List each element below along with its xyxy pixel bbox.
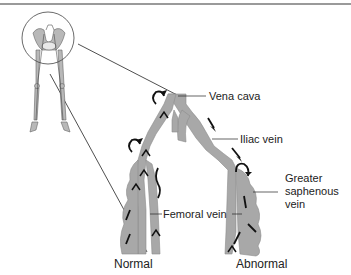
zoom-circle xyxy=(22,12,74,64)
label-greater-saphenous-3: vein xyxy=(285,198,305,210)
label-abnormal: Abnormal xyxy=(236,258,287,270)
label-greater-saphenous-1: Greater xyxy=(285,172,322,184)
vein-diagram: Vena cava Iliac vein Greater saphenous v… xyxy=(0,0,351,275)
label-normal: Normal xyxy=(114,258,153,270)
label-vena-cava: Vena cava xyxy=(209,90,260,102)
diagram-graphics xyxy=(0,0,351,275)
label-greater-saphenous-2: saphenous xyxy=(285,185,339,197)
label-femoral-vein: Femoral vein xyxy=(163,208,227,220)
zoom-lines xyxy=(50,44,181,252)
label-iliac-vein: Iliac vein xyxy=(240,133,283,145)
